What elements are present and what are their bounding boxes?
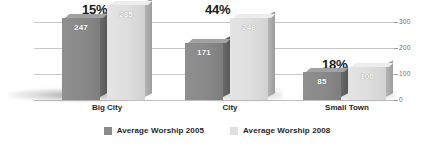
legend-swatch-icon	[230, 127, 238, 135]
bar-top-face	[306, 68, 348, 72]
tick-mark-200	[394, 48, 398, 49]
bar-value-label: 171	[185, 48, 223, 57]
bar-value-label: 85	[303, 77, 341, 86]
bar-value-label: 285	[107, 10, 145, 19]
bar-value-label: 247	[62, 23, 100, 32]
growth-label-city: 44%	[205, 2, 230, 17]
bar-small-town-2008[interactable]: 100	[348, 67, 386, 100]
y-axis-tick-0: 0	[399, 96, 403, 104]
bar-big-city-2005[interactable]: 247	[62, 18, 100, 100]
bar-top-face	[351, 63, 393, 67]
tick-mark-300	[394, 22, 398, 23]
legend-item-2008[interactable]: Average Worship 2008	[230, 126, 330, 135]
bar-chart: 300 200 100 0 15% 247 285 Big City 44%	[0, 0, 434, 150]
bar-side-face	[223, 36, 230, 97]
bar-value-label: 246	[230, 23, 268, 32]
bar-big-city-2008[interactable]: 285	[107, 5, 145, 100]
legend-label: Average Worship 2008	[243, 126, 330, 135]
bar-side-face	[145, 0, 152, 97]
tick-mark-100	[394, 74, 398, 75]
plot-area: 300 200 100 0 15% 247 285 Big City 44%	[0, 0, 434, 120]
bar-city-2005[interactable]: 171	[185, 43, 223, 100]
category-label-city: City	[185, 103, 275, 112]
category-label-small-town: Small Town	[300, 103, 394, 112]
bar-value-label: 100	[348, 72, 386, 81]
bar-side-face	[100, 11, 107, 97]
bar-face	[107, 5, 145, 100]
legend-swatch-icon	[104, 127, 112, 135]
y-axis-tick-100: 100	[399, 70, 410, 78]
bar-city-2008[interactable]: 246	[230, 18, 268, 100]
bar-top-face	[65, 14, 107, 18]
bar-top-face	[188, 39, 230, 43]
legend-label: Average Worship 2005	[117, 126, 204, 135]
y-axis-tick-200: 200	[399, 44, 410, 52]
bar-small-town-2005[interactable]: 85	[303, 72, 341, 100]
y-axis-tick-300: 300	[399, 18, 410, 26]
bar-top-face	[233, 14, 275, 18]
legend-item-2005[interactable]: Average Worship 2005	[104, 126, 204, 135]
bar-side-face	[268, 11, 275, 97]
bar-top-face	[110, 1, 152, 5]
chart-legend: Average Worship 2005 Average Worship 200…	[0, 126, 434, 135]
category-label-big-city: Big City	[62, 103, 152, 112]
